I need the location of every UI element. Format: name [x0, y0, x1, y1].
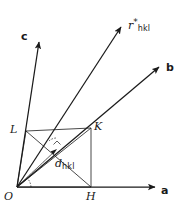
line-L-K — [26, 128, 91, 131]
d-hkl-base: d — [55, 157, 62, 170]
angle-at-foot-arc — [49, 138, 57, 141]
r-star-hkl-subscript: hkl — [138, 24, 151, 33]
crystallography-diagram: c b a r*hkl dhkl L K H O — [0, 0, 179, 209]
right-angle-tick-at-plane — [54, 141, 61, 145]
point-label-L: L — [10, 124, 17, 135]
vector-label-d-hkl: dhkl — [55, 158, 75, 171]
axis-lines — [17, 42, 159, 187]
axis-label-c: c — [21, 31, 28, 42]
point-label-O: O — [4, 191, 13, 202]
angle-at-origin-arc — [28, 179, 32, 188]
vector-label-r-star-hkl: r*hkl — [128, 18, 150, 33]
b-axis-line — [17, 67, 159, 187]
d-hkl-subscript: hkl — [62, 162, 75, 171]
point-label-H: H — [86, 191, 96, 202]
c-axis-line — [17, 42, 39, 187]
point-label-K: K — [94, 121, 102, 132]
axis-label-a: a — [161, 185, 168, 196]
axis-label-b: b — [166, 62, 174, 73]
